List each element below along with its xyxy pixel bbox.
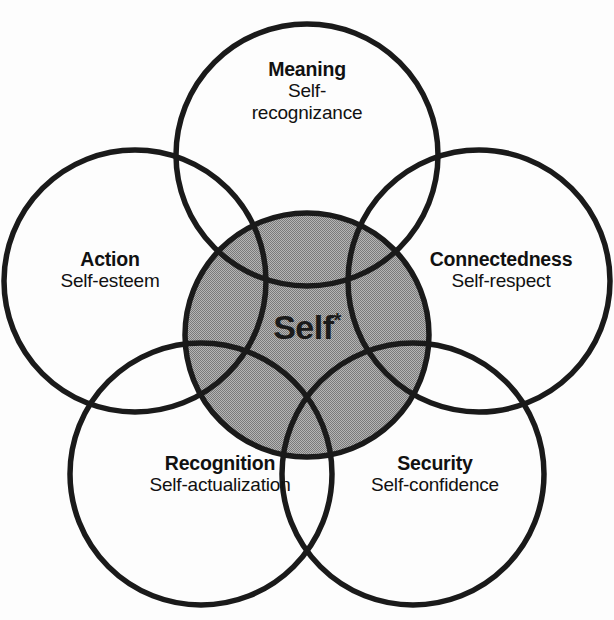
label-center-self: Self* <box>232 308 382 347</box>
label-action: Action Self-esteem <box>26 248 194 292</box>
label-connectedness: Connectedness Self-respect <box>408 248 594 292</box>
label-recognition-title: Recognition <box>112 452 328 474</box>
label-security-title: Security <box>332 452 538 474</box>
label-security-subtitle: Self-confidence <box>332 474 538 496</box>
label-meaning-title: Meaning <box>207 58 407 80</box>
center-self-text: Self <box>273 308 333 346</box>
label-meaning-subtitle-line2: recognizance <box>207 102 407 124</box>
label-meaning: Meaning Self- recognizance <box>207 58 407 124</box>
label-recognition: Recognition Self-actualization <box>112 452 328 496</box>
label-connectedness-title: Connectedness <box>408 248 594 270</box>
label-recognition-subtitle: Self-actualization <box>112 474 328 496</box>
label-action-subtitle: Self-esteem <box>26 270 194 292</box>
label-meaning-subtitle-line1: Self- <box>207 80 407 102</box>
label-security: Security Self-confidence <box>332 452 538 496</box>
center-self-asterisk: * <box>334 309 341 331</box>
label-connectedness-subtitle: Self-respect <box>408 270 594 292</box>
label-action-title: Action <box>26 248 194 270</box>
venn-diagram: Meaning Self- recognizance Action Self-e… <box>0 0 614 620</box>
